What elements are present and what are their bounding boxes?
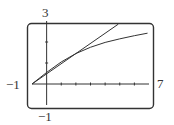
graph-screen bbox=[0, 0, 174, 125]
series-curve bbox=[32, 33, 148, 84]
